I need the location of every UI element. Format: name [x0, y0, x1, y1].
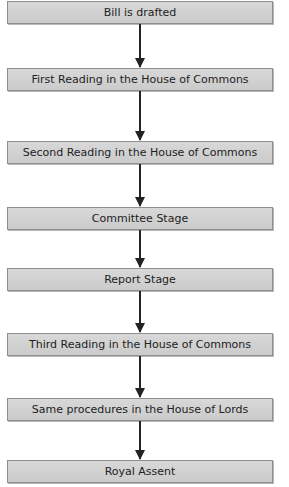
step-label: First Reading in the House of Commons — [31, 73, 248, 86]
step-third-reading: Third Reading in the House of Commons — [7, 333, 273, 356]
arrow-down-icon — [139, 356, 141, 397]
step-label: Royal Assent — [105, 465, 176, 478]
arrow-down-icon — [139, 230, 141, 267]
step-label: Third Reading in the House of Commons — [29, 338, 251, 351]
step-label: Report Stage — [104, 273, 176, 286]
step-royal-assent: Royal Assent — [7, 460, 273, 483]
step-first-reading: First Reading in the House of Commons — [7, 68, 273, 91]
step-house-of-lords: Same procedures in the House of Lords — [7, 398, 273, 421]
step-label: Bill is drafted — [104, 6, 176, 19]
step-second-reading: Second Reading in the House of Commons — [7, 141, 273, 164]
arrow-down-icon — [139, 291, 141, 332]
step-label: Same procedures in the House of Lords — [32, 403, 249, 416]
step-committee-stage: Committee Stage — [7, 207, 273, 230]
step-label: Committee Stage — [92, 212, 188, 225]
step-bill-drafted: Bill is drafted — [7, 1, 273, 24]
arrow-down-icon — [139, 164, 141, 206]
arrow-down-icon — [139, 91, 141, 140]
arrow-down-icon — [139, 24, 141, 67]
step-report-stage: Report Stage — [7, 268, 273, 291]
step-label: Second Reading in the House of Commons — [23, 146, 258, 159]
arrow-down-icon — [139, 421, 141, 459]
